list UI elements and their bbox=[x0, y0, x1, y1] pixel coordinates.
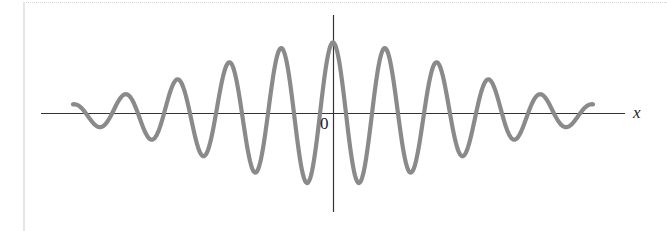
plot-area bbox=[0, 0, 667, 231]
origin-label: 0 bbox=[320, 114, 329, 134]
x-axis-label: x bbox=[633, 103, 641, 123]
